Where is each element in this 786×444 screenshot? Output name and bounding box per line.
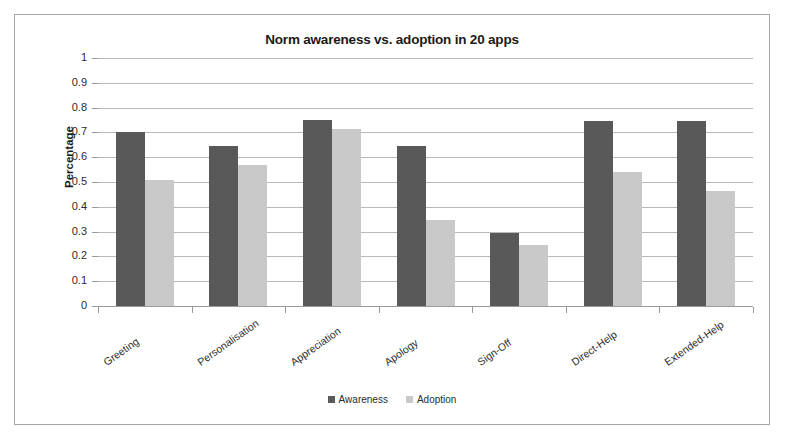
- legend-swatch-adoption: [406, 396, 413, 403]
- y-axis-tick-label: 0.8: [55, 101, 87, 113]
- y-axis-tick-label: 0.5: [55, 175, 87, 187]
- y-axis-tick-label: 0: [55, 299, 87, 311]
- y-axis-tick-label: 0.3: [55, 225, 87, 237]
- x-axis-tick: [379, 307, 380, 313]
- bar-awareness-apology: [397, 146, 426, 306]
- gridline: [98, 157, 753, 158]
- x-axis-tick: [98, 307, 99, 313]
- y-axis-tick-label: 0.7: [55, 125, 87, 137]
- x-axis-tick: [192, 307, 193, 313]
- gridline: [98, 58, 753, 59]
- bar-adoption-greeting: [145, 180, 174, 306]
- legend-label-adoption: Adoption: [417, 394, 456, 405]
- x-axis-label-personalisation: Personalisation: [195, 317, 261, 368]
- x-axis-tick: [285, 307, 286, 313]
- bar-awareness-greeting: [116, 132, 145, 306]
- y-axis-tick-label: 1: [55, 51, 87, 63]
- y-axis-tick-label: 0.9: [55, 76, 87, 88]
- bar-adoption-appreciation: [332, 129, 361, 306]
- x-axis-tick: [566, 307, 567, 313]
- x-axis-tick: [753, 307, 754, 313]
- x-axis-label-extended-help: Extended-Help: [662, 318, 726, 368]
- bar-adoption-apology: [426, 220, 455, 306]
- gridline: [98, 182, 753, 183]
- x-axis-label-greeting: Greeting: [101, 335, 141, 368]
- chart-title: Norm awareness vs. adoption in 20 apps: [15, 32, 769, 47]
- y-axis-tick-label: 0.6: [55, 150, 87, 162]
- y-axis-tick-label: 0.1: [55, 274, 87, 286]
- bar-awareness-appreciation: [303, 120, 332, 306]
- chart-legend: AwarenessAdoption: [15, 394, 769, 405]
- gridline: [98, 207, 753, 208]
- legend-label-awareness: Awareness: [339, 394, 388, 405]
- x-axis-label-appreciation: Appreciation: [288, 325, 343, 368]
- x-axis-label-sign-off: Sign-Off: [475, 336, 513, 368]
- bar-awareness-sign-off: [490, 233, 519, 306]
- legend-swatch-awareness: [328, 396, 335, 403]
- gridline: [98, 132, 753, 133]
- y-axis-tick-label: 0.2: [55, 249, 87, 261]
- x-axis-label-direct-help: Direct-Help: [569, 328, 619, 368]
- chart-frame: Norm awareness vs. adoption in 20 apps P…: [14, 14, 770, 425]
- plot-area: [98, 58, 753, 306]
- legend-item-awareness[interactable]: Awareness: [328, 394, 388, 405]
- x-axis-tick: [659, 307, 660, 313]
- bar-adoption-personalisation: [238, 165, 267, 306]
- gridline: [98, 83, 753, 84]
- bar-awareness-extended-help: [677, 121, 706, 306]
- legend-item-adoption[interactable]: Adoption: [406, 394, 456, 405]
- y-axis-tick-label: 0.4: [55, 200, 87, 212]
- bar-adoption-sign-off: [519, 245, 548, 306]
- bar-awareness-personalisation: [209, 146, 238, 306]
- bar-awareness-direct-help: [584, 121, 613, 306]
- bar-adoption-direct-help: [613, 172, 642, 306]
- x-axis-label-apology: Apology: [382, 336, 420, 368]
- gridline: [98, 306, 753, 307]
- x-axis-tick: [472, 307, 473, 313]
- gridline: [98, 108, 753, 109]
- bar-adoption-extended-help: [706, 191, 735, 306]
